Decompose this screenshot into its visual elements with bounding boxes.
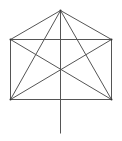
segment-apex-top_left bbox=[11, 11, 61, 40]
vertex-top_right bbox=[111, 39, 113, 41]
segment-apex-bottom_left bbox=[11, 11, 61, 100]
vertex-bottom_right bbox=[111, 99, 113, 101]
vertex-apex bbox=[60, 10, 62, 12]
vertex-bottom_left bbox=[10, 99, 12, 101]
vertex-top_left bbox=[10, 39, 12, 41]
segment-apex-bottom_right bbox=[61, 11, 112, 100]
line-segments bbox=[11, 11, 112, 134]
segment-apex-top_right bbox=[61, 11, 112, 40]
geometric-figure bbox=[0, 0, 122, 141]
